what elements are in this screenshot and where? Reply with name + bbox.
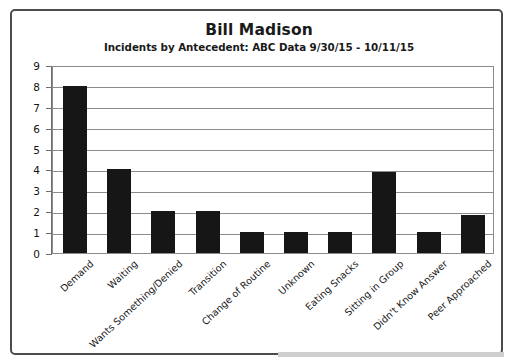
chart-title-block: Bill Madison Incidents by Antecedent: AB… [0,22,518,54]
bar-slot [451,67,495,253]
x-tick-label: Demand [58,258,95,294]
y-tick-label: 5 [33,144,40,155]
bar-slot [141,67,185,253]
x-tick-label: Waiting [106,258,140,291]
y-axis: 0123456789 [0,60,52,260]
x-tick-label: Wants Something/Denied [87,258,184,350]
x-tick-label: Transition [186,258,228,298]
bar-slot [318,67,362,253]
bar [63,86,87,253]
bar [151,211,175,253]
bar-slot [362,67,406,253]
bar [284,232,308,253]
y-tick-label: 7 [33,102,40,113]
y-tick-label: 8 [33,81,40,92]
bar [328,232,352,253]
y-tick-label: 1 [33,228,40,239]
bar [196,211,220,253]
bar [461,215,485,253]
bar-slot [97,67,141,253]
bar-slot [53,67,97,253]
y-tick-label: 0 [33,249,40,260]
y-tick-label: 2 [33,207,40,218]
y-tick-label: 4 [33,165,40,176]
chart-subtitle: Incidents by Antecedent: ABC Data 9/30/1… [0,40,518,54]
y-tick-label: 9 [33,61,40,72]
bar [107,169,131,253]
bar [372,172,396,253]
bar [417,232,441,253]
bar-series [53,67,493,253]
plot-area [52,66,494,254]
y-tick-label: 6 [33,123,40,134]
bar-slot [230,67,274,253]
y-tick-label: 3 [33,186,40,197]
x-tick-label: Didn't Know Answer [371,258,449,332]
bar-slot [186,67,230,253]
page-title: Bill Madison [0,22,518,39]
bar-slot [407,67,451,253]
bar [240,232,264,253]
x-tick-label: Unknown [276,258,316,297]
x-axis-labels: DemandWaitingWants Something/DeniedTrans… [52,254,494,354]
bar-slot [274,67,318,253]
